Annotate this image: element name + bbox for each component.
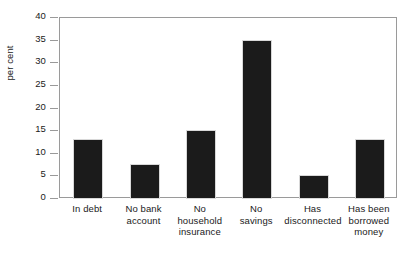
x-axis-label: Nosavings [228,203,284,226]
y-tick-line [50,85,58,86]
y-tick-line [50,198,58,199]
x-axis-label-line: disconnected [284,215,340,227]
x-axis-label-line: No [228,203,284,215]
x-axis-label: In debt [59,203,115,215]
x-axis-label-line: Has [284,203,340,215]
y-tick-line [50,153,58,154]
x-axis-label-line: No bank [115,203,171,215]
bar [355,139,385,199]
y-tick-label: 40 [0,10,46,21]
bar [299,175,329,199]
bar [242,40,272,199]
x-axis-label-line: household [172,215,228,227]
x-axis-label-line: In debt [59,203,115,215]
bar [186,130,216,199]
bar [130,164,160,199]
y-tick-label: 25 [0,78,46,89]
x-axis-label-line: insurance [172,226,228,238]
x-axis-label-line: savings [228,215,284,227]
x-axis-label: Hasdisconnected [284,203,340,226]
y-tick-label: 20 [0,101,46,112]
y-tick-line [50,108,58,109]
x-axis-label-line: account [115,215,171,227]
y-tick-label: 0 [0,191,46,202]
x-axis-label-line: borrowed [341,215,397,227]
bar-chart: per cent 0510152025303540 In debtNo bank… [0,0,412,253]
x-axis-label-line: money [341,226,397,238]
y-tick-line [50,17,58,18]
y-tick-line [50,40,58,41]
x-axis-label: Nohouseholdinsurance [172,203,228,238]
y-tick-label: 5 [0,168,46,179]
y-tick-label: 10 [0,146,46,157]
plot-area [59,17,397,198]
x-axis-label-line: Has been [341,203,397,215]
y-tick-label: 15 [0,123,46,134]
x-axis-label: No bankaccount [115,203,171,226]
y-tick-line [50,130,58,131]
y-tick-line [50,175,58,176]
x-axis-label: Has beenborrowedmoney [341,203,397,238]
y-tick-label: 30 [0,55,46,66]
x-axis-label-line: No [172,203,228,215]
y-tick-label: 35 [0,33,46,44]
y-tick-line [50,62,58,63]
bar [73,139,103,199]
